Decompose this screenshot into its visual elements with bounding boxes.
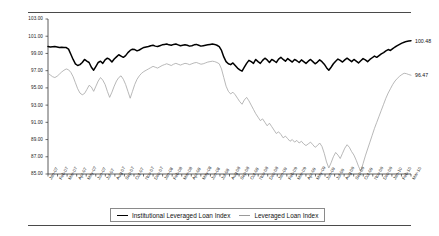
chart-legend: Institutional Leveraged Loan Index Lever… [110, 208, 325, 222]
series-end-value-label: 96.47 [415, 72, 428, 78]
legend-line-swatch-icon [239, 215, 250, 216]
y-axis-tick-text: 103.00 [10, 16, 43, 21]
y-axis-tick-text: 87.00 [10, 154, 43, 159]
y-axis-tick-text: 91.00 [10, 120, 43, 125]
top-divider-rule [28, 12, 411, 13]
legend-line-swatch-icon [117, 215, 128, 216]
y-axis-tick-text: 97.00 [10, 68, 43, 73]
y-axis-tick-text: 99.00 [10, 51, 43, 56]
y-axis-tick-text: 95.00 [10, 85, 43, 90]
legend-entry-leveraged: Leveraged Loan Index [239, 212, 318, 219]
y-axis-tick-label: 97.00 [10, 68, 43, 73]
y-axis-tick-label: 87.00 [10, 154, 43, 159]
y-axis-tick-label: 89.00 [10, 137, 43, 142]
y-axis-tick-label: 91.00 [10, 120, 43, 125]
legend-entry-institutional: Institutional Leveraged Loan Index [117, 212, 230, 219]
y-axis-tick-text: 85.00 [10, 171, 43, 176]
y-axis-tick-label: 95.00 [10, 85, 43, 90]
legend-label: Institutional Leveraged Loan Index [132, 212, 230, 219]
y-axis-tick-text: 93.00 [10, 103, 43, 108]
y-axis-tick-label: 103.00 [10, 16, 43, 21]
legend-label: Leveraged Loan Index [254, 212, 318, 219]
y-axis-tick-text: 101.00 [10, 34, 43, 39]
y-axis-tick-label: 93.00 [10, 103, 43, 108]
bottom-divider-rule [28, 225, 411, 226]
y-axis-tick-label: 99.00 [10, 51, 43, 56]
series-end-value-label: 100.48 [415, 38, 431, 44]
y-axis-tick-label: 101.00 [10, 34, 43, 39]
plot-area: 85.0087.0089.0091.0093.0095.0097.0099.00… [0, 14, 439, 204]
chart-figure: 85.0087.0089.0091.0093.0095.0097.0099.00… [0, 0, 439, 236]
y-axis-tick-text: 89.00 [10, 137, 43, 142]
y-axis-tick-label: 85.00 [10, 171, 43, 176]
